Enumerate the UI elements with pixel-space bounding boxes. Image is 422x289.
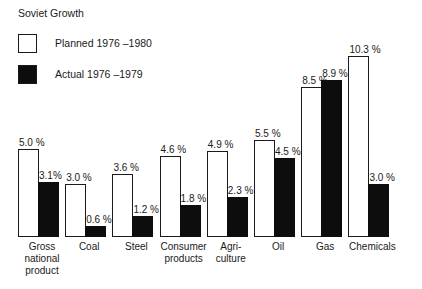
soviet-growth-bar-chart: Soviet Growth Planned 1976 –1980 Actual … [0,0,422,289]
category-label: Chemicals [344,241,400,253]
bar-planned: 4.9 % [207,151,228,237]
bar-group: 10.3 %3.0 %Chemicals [348,47,390,237]
category-label-line: Chemicals [349,241,396,252]
bar-actual: 0.6 % [85,226,106,237]
bar-actual: 3.0 % [368,184,389,237]
bar-value-planned: 5.0 % [19,137,45,149]
category-label-line: Consumer [161,241,207,252]
bar-planned: 4.6 % [160,156,181,237]
bar-value-planned: 3.6 % [113,162,139,174]
category-label-line: Oil [272,241,284,252]
bar-actual: 8.9 % [321,80,342,237]
category-label-line: national [14,253,70,265]
bar-value-actual: 4.5 % [275,146,301,158]
bar-value-actual: 1.8 % [181,193,207,205]
bar-value-actual: 2.3 % [228,185,254,197]
bar-actual: 1.8 % [180,205,201,237]
bar-value-planned: 3.0 % [66,172,92,184]
bar-group: 8.5 %8.9 %Gas [301,47,343,237]
bar-group: 3.6 %1.2 %Steel [112,47,154,237]
bar-group-bars: 4.6 %1.8 %Consumerproducts [160,47,202,237]
bar-actual: 4.5 % [274,158,295,237]
category-label-line: culture [203,253,259,265]
bar-value-actual: 1.2 % [133,204,159,216]
bar-planned: 3.6 % [112,174,133,237]
bar-value-planned: 5.5 % [255,128,281,140]
category-label-line: Coal [79,241,100,252]
bar-group-bars: 5.0 %3.1%Grossnationalproduct [18,47,60,237]
bar-group: 5.5 %4.5 %Oil [254,47,296,237]
bar-group: 4.6 %1.8 %Consumerproducts [160,47,202,237]
bar-group: 3.0 %0.6 %Coal [65,47,107,237]
bar-value-actual: 3.0 % [369,172,395,184]
bar-group-bars: 5.5 %4.5 %Oil [254,47,296,237]
bar-planned: 10.3 % [348,56,369,237]
bar-planned: 8.5 % [301,87,322,237]
category-label-line: Agri- [220,241,241,252]
category-label-line: product [14,265,70,277]
bar-actual: 2.3 % [227,197,248,237]
plot-area: 5.0 %3.1%Grossnationalproduct3.0 %0.6 %C… [0,0,422,289]
bar-group-bars: 8.5 %8.9 %Gas [301,47,343,237]
bar-value-planned: 4.9 % [208,139,234,151]
bar-group-bars: 3.6 %1.2 %Steel [112,47,154,237]
bar-value-actual: 0.6 % [86,214,112,226]
bar-value-actual: 8.9 % [322,68,348,80]
bar-value-actual: 3.1% [39,170,62,182]
bar-group-bars: 10.3 %3.0 %Chemicals [348,47,390,237]
bar-value-planned: 4.6 % [161,144,187,156]
bar-planned: 5.5 % [254,140,275,237]
bar-actual: 1.2 % [132,216,153,237]
category-label-line: Gas [316,241,334,252]
category-label-line: Gross [29,241,56,252]
bar-actual: 3.1% [38,182,59,237]
bar-planned: 5.0 % [18,149,39,237]
bar-group: 5.0 %3.1%Grossnationalproduct [18,47,60,237]
bar-planned: 3.0 % [65,184,86,237]
category-label-line: Steel [125,241,148,252]
bar-group-bars: 4.9 %2.3 %Agri-culture [207,47,249,237]
bar-group: 4.9 %2.3 %Agri-culture [207,47,249,237]
bar-group-bars: 3.0 %0.6 %Coal [65,47,107,237]
bar-value-planned: 10.3 % [349,44,380,56]
